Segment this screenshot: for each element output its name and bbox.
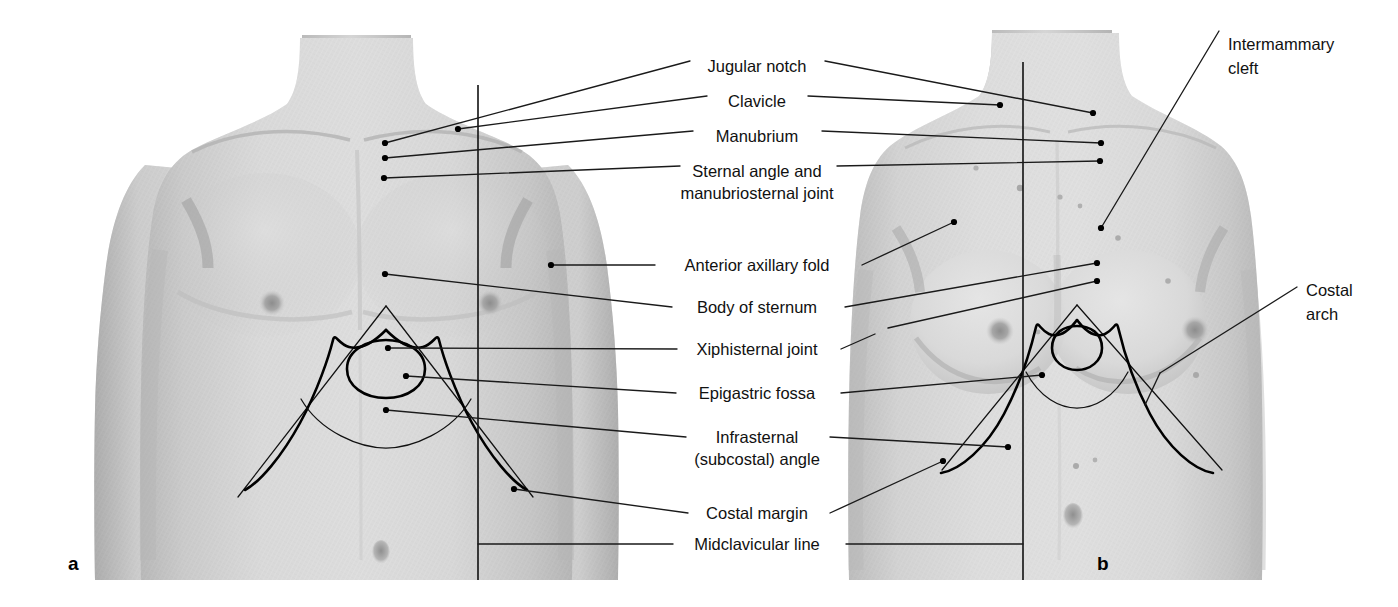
male-pec-right bbox=[356, 173, 548, 337]
leader-jugular-notch-a bbox=[385, 61, 690, 143]
female-skin-mark-5 bbox=[1165, 278, 1171, 284]
male-navel bbox=[372, 540, 390, 564]
panel-b-photo bbox=[848, 30, 1262, 580]
dot-xiphisternal-joint-b bbox=[1094, 278, 1100, 284]
dot-jugular-notch-b bbox=[1090, 110, 1096, 116]
female-skin-mark-3 bbox=[1078, 204, 1083, 209]
female-navel bbox=[1063, 503, 1083, 529]
label-anterior-axillary-fold: Anterior axillary fold bbox=[685, 256, 830, 274]
label-xiphisternal-joint: Xiphisternal joint bbox=[696, 340, 817, 358]
label-epigastric-fossa: Epigastric fossa bbox=[699, 384, 816, 402]
dot-xiphisternal-joint-a bbox=[385, 345, 391, 351]
label-sternal-angle-line2: manubriosternal joint bbox=[680, 184, 834, 202]
dot-epigastric-fossa-b bbox=[1039, 372, 1045, 378]
female-skin-mark-9 bbox=[973, 165, 978, 170]
panel-b-letter: b bbox=[1097, 553, 1109, 574]
male-nipple-left bbox=[259, 290, 285, 316]
female-linea-alba bbox=[1059, 400, 1060, 560]
label-intermammary-cleft-line2: cleft bbox=[1228, 59, 1259, 77]
label-sternal-angle-line1: Sternal angle and bbox=[692, 162, 821, 180]
panel-a-photo bbox=[94, 35, 619, 580]
dot-infrasternal-angle-a bbox=[383, 407, 389, 413]
dot-sternal-angle-a bbox=[381, 175, 387, 181]
female-skin-mark-7 bbox=[1073, 463, 1079, 469]
female-skin-mark-2 bbox=[1057, 194, 1062, 199]
female-skin-mark-4 bbox=[1115, 235, 1121, 241]
female-nipple-left bbox=[986, 317, 1014, 345]
dot-infrasternal-angle-b bbox=[1005, 444, 1011, 450]
dot-anterior-axillary-fold-a bbox=[548, 262, 554, 268]
female-skin-mark-6 bbox=[1193, 372, 1199, 378]
dot-costal-margin-a bbox=[511, 486, 517, 492]
dot-body-of-sternum-a bbox=[382, 271, 388, 277]
dot-manubrium-b bbox=[1098, 140, 1104, 146]
dot-anterior-axillary-fold-b bbox=[951, 219, 957, 225]
dot-manubrium-a bbox=[382, 155, 388, 161]
label-intermammary-cleft-line1: Intermammary bbox=[1228, 35, 1335, 53]
female-intermammary-shadow bbox=[1057, 255, 1058, 336]
male-linea-alba bbox=[360, 350, 361, 560]
label-costal-arch-line1: Costal bbox=[1306, 281, 1353, 299]
dot-clavicle-a bbox=[455, 126, 461, 132]
panel-a-letter: a bbox=[68, 553, 79, 574]
dot-costal-margin-b bbox=[940, 458, 946, 464]
dot-intermammary-cleft bbox=[1098, 225, 1104, 231]
label-body-of-sternum: Body of sternum bbox=[697, 298, 817, 316]
dot-sternal-angle-b bbox=[1097, 158, 1103, 164]
dot-jugular-notch-a bbox=[382, 140, 388, 146]
label-infrasternal-angle-line1: Infrasternal bbox=[716, 428, 799, 446]
leader-clavicle-b bbox=[808, 96, 1000, 105]
anatomy-figure: Jugular notch Clavicle Manubrium Sternal… bbox=[0, 0, 1398, 607]
leader-clavicle-a bbox=[458, 96, 707, 129]
label-jugular-notch: Jugular notch bbox=[707, 57, 806, 75]
label-costal-arch-line2: arch bbox=[1306, 305, 1338, 323]
female-nipple-right bbox=[1181, 316, 1209, 344]
label-midclavicular-line: Midclavicular line bbox=[694, 535, 820, 553]
label-clavicle: Clavicle bbox=[728, 92, 786, 110]
label-costal-margin: Costal margin bbox=[706, 504, 808, 522]
figure-canvas: Jugular notch Clavicle Manubrium Sternal… bbox=[0, 0, 1398, 607]
dot-clavicle-b bbox=[997, 102, 1003, 108]
dot-epigastric-fossa-a bbox=[403, 373, 409, 379]
female-skin-mark-8 bbox=[1093, 458, 1098, 463]
center-label-group: Jugular notch Clavicle Manubrium Sternal… bbox=[680, 57, 834, 553]
dot-body-of-sternum-b bbox=[1094, 260, 1100, 266]
label-manubrium: Manubrium bbox=[716, 127, 799, 145]
male-nipple-right bbox=[477, 290, 503, 316]
label-infrasternal-angle-line2: (subcostal) angle bbox=[694, 450, 820, 468]
